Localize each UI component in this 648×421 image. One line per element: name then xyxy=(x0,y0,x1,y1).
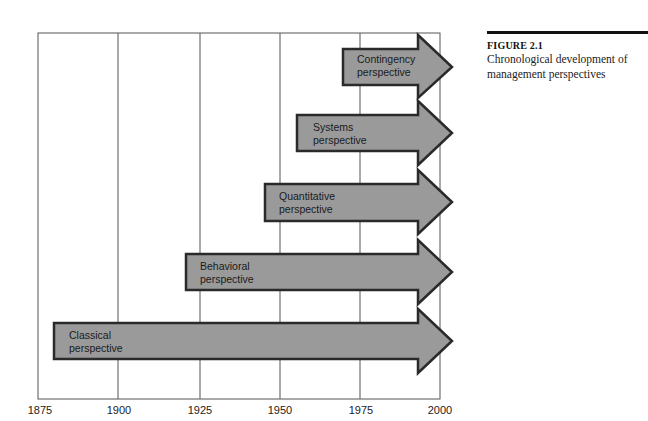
arrow-label-contingency-1: Contingency xyxy=(357,53,416,65)
arrow-quantitative: Quantitative perspective xyxy=(265,170,452,234)
arrow-label-quantitative-1: Quantitative xyxy=(279,190,335,202)
tick-label-1875: 1875 xyxy=(28,404,52,416)
arrow-systems: Systems perspective xyxy=(297,101,452,165)
tick-label-1950: 1950 xyxy=(268,404,292,416)
tick-label-1925: 1925 xyxy=(188,404,212,416)
arrow-label-classical-2: perspective xyxy=(69,342,123,354)
tick-label-1900: 1900 xyxy=(107,404,131,416)
arrow-label-behavioral-2: perspective xyxy=(200,273,254,285)
arrow-label-systems-2: perspective xyxy=(313,134,367,146)
arrow-behavioral: Behavioral perspective xyxy=(186,240,452,304)
arrow-classical: Classical perspective xyxy=(54,309,452,373)
arrow-label-behavioral-1: Behavioral xyxy=(200,260,250,272)
figure-caption-line-1: Chronological development of xyxy=(487,52,648,67)
figure-caption-line-2: management perspectives xyxy=(487,67,648,82)
figure-rule xyxy=(487,31,648,34)
figure-number: FIGURE 2.1 xyxy=(487,40,543,51)
tick-label-1975: 1975 xyxy=(349,404,373,416)
arrow-label-quantitative-2: perspective xyxy=(279,203,333,215)
arrow-contingency: Contingency perspective xyxy=(343,35,452,98)
tick-label-2000: 2000 xyxy=(428,404,452,416)
arrow-label-systems-1: Systems xyxy=(313,121,353,133)
arrow-label-classical-1: Classical xyxy=(69,329,111,341)
arrow-label-contingency-2: perspective xyxy=(357,66,411,78)
figure-caption: Chronological development of management … xyxy=(487,52,648,82)
